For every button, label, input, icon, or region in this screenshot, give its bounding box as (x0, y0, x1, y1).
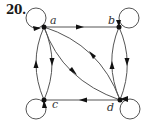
node-d (118, 98, 123, 103)
edge-b-to-d (119, 27, 127, 100)
arrow-c-to-a-icon (34, 60, 39, 68)
arrow-a-to-b-icon (76, 25, 84, 30)
arrow-a-to-d-icon (69, 67, 77, 75)
directed-graph-figure: 20. (0, 0, 145, 121)
edge-c-to-a (36, 27, 44, 100)
node-a (42, 25, 47, 30)
node-b (117, 25, 122, 30)
loop-b (119, 8, 139, 28)
arrow-a-to-c-icon (50, 58, 55, 66)
edge-d-to-a (44, 27, 120, 100)
node-label-a: a (50, 15, 57, 26)
node-label-b: b (108, 15, 115, 26)
node-c (42, 98, 47, 103)
graph-drawing (0, 0, 145, 121)
node-label-d: d (107, 102, 114, 113)
loop-d (120, 99, 140, 119)
arrow-d-to-b-icon (110, 61, 115, 69)
arrow-d-to-c-icon (79, 98, 87, 103)
arrow-b-to-d-icon (125, 58, 130, 66)
edge-a-to-d (44, 27, 120, 100)
node-label-c: c (52, 99, 58, 110)
